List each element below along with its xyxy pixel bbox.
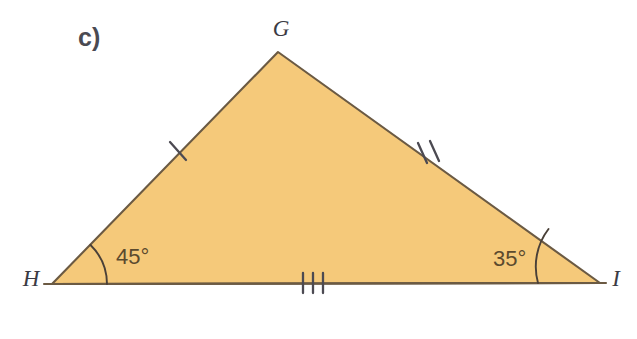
part-label: c) <box>78 23 100 51</box>
angle-label-H: 45° <box>116 244 149 269</box>
vertex-label-H: H <box>22 266 41 291</box>
vertex-label-G: G <box>273 16 290 41</box>
triangle-diagram: c) G H I 45° 35° <box>0 0 637 339</box>
vertex-label-I: I <box>611 266 621 291</box>
tick-mark <box>430 141 439 161</box>
base-line-HI <box>44 283 606 284</box>
geometry-figure-canvas: c) G H I 45° 35° <box>0 0 637 339</box>
angle-label-I: 35° <box>493 246 526 271</box>
